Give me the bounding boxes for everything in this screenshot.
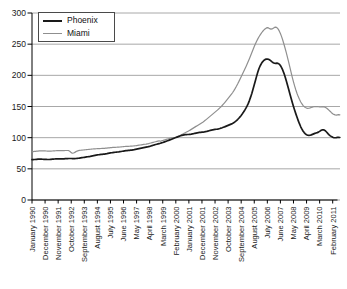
x-tick-label-5: August 1994 <box>93 207 102 249</box>
y-tick-label-100: 100 <box>12 133 26 143</box>
x-tick-label-11: February 2000 <box>172 207 181 256</box>
x-tick-label-0: January 1990 <box>28 207 37 252</box>
x-tick-label-22: March 2010 <box>315 207 324 247</box>
x-tick-label-7: June 1996 <box>119 207 128 242</box>
y-tick-label-150: 150 <box>12 102 26 112</box>
x-tick-label-6: July 1995 <box>106 207 115 239</box>
x-tick-label-19: June 2007 <box>276 207 285 242</box>
x-tick-label-9: April 1998 <box>145 207 154 241</box>
x-tick-label-14: November 2002 <box>211 207 220 260</box>
chart-canvas: 050100150200250300January 1990December 1… <box>0 0 347 289</box>
x-tick-label-21: April 2009 <box>302 207 311 241</box>
x-tick-label-12: January 2001 <box>185 207 194 252</box>
y-tick-label-300: 300 <box>12 8 26 18</box>
legend-label-miami: Miami <box>67 29 90 38</box>
x-tick-label-15: October 2003 <box>224 207 233 252</box>
chart-figure: 050100150200250300January 1990December 1… <box>0 0 347 289</box>
x-tick-label-20: May 2008 <box>289 207 298 240</box>
legend-label-phoenix: Phoenix <box>67 16 98 25</box>
x-tick-label-18: July 2006 <box>263 207 272 239</box>
miami-line-swatch <box>43 33 62 34</box>
x-tick-label-13: December 2001 <box>198 207 207 260</box>
x-tick-label-10: March 1999 <box>159 207 168 247</box>
legend-entry-miami: Miami <box>43 27 110 39</box>
x-tick-label-16: September 2004 <box>237 207 246 262</box>
x-tick-label-17: August 2005 <box>250 207 259 249</box>
chart-legend: Phoenix Miami <box>38 12 115 42</box>
y-tick-label-200: 200 <box>12 70 26 80</box>
x-tick-label-8: May 1997 <box>132 207 141 240</box>
y-tick-label-0: 0 <box>21 195 26 205</box>
x-tick-label-4: September 1993 <box>80 207 89 262</box>
phoenix-line-swatch <box>43 20 62 22</box>
phoenix-series-line <box>32 59 340 160</box>
legend-entry-phoenix: Phoenix <box>43 15 110 27</box>
x-tick-label-1: December 1990 <box>41 207 50 260</box>
x-tick-label-3: October 1992 <box>67 207 76 252</box>
y-tick-label-50: 50 <box>17 164 27 174</box>
x-tick-label-2: November 1991 <box>54 207 63 260</box>
x-tick-label-23: February 2011 <box>329 207 338 255</box>
y-tick-label-250: 250 <box>12 39 26 49</box>
